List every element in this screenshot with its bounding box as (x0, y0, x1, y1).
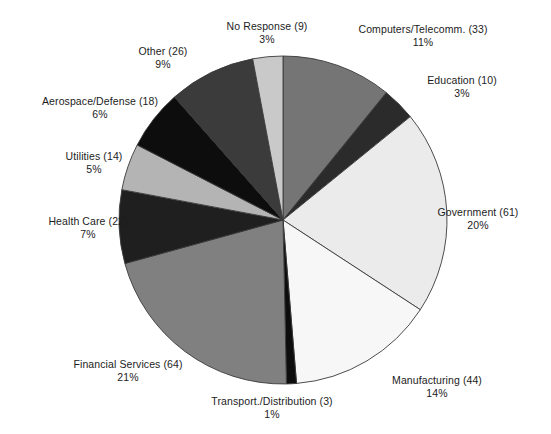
pie-slice-label-text: Financial Services (64)21% (73, 358, 182, 384)
pie-slice-label-percent: 20% (438, 219, 519, 232)
pie-slice-label-percent: 21% (73, 371, 182, 384)
pie-slice-label-name: Computers/Telecomm. (33) (358, 23, 487, 36)
pie-slice-label-text: Manufacturing (44)14% (392, 374, 482, 400)
pie-slice-label-name: Transport./Distribution (3) (211, 395, 332, 408)
pie-slice-label-text: Utilities (14)5% (66, 150, 123, 176)
pie-chart: Computers/Telecomm. (33)11%Education (10… (0, 0, 551, 434)
pie-slice-label-text: No Response (9)3% (227, 20, 308, 46)
pie-slice-label-name: Aerospace/Defense (18) (42, 95, 158, 108)
pie-chart-page: Computers/Telecomm. (33)11%Education (10… (0, 0, 551, 434)
pie-slice-label-name: No Response (9) (227, 20, 308, 33)
pie-slice-label-percent: 11% (358, 36, 487, 49)
pie-slice-label-name: Financial Services (64) (73, 358, 182, 371)
pie-slice-label-text: Computers/Telecomm. (33)11% (358, 23, 487, 49)
pie-slice-label-name: Health Care (22) (48, 215, 127, 228)
pie-slice-label-percent: 14% (392, 387, 482, 400)
pie-slice-label-name: Other (26) (139, 45, 188, 58)
pie-slice-label-text: Aerospace/Defense (18)6% (42, 95, 158, 121)
pie-slice-label-name: Manufacturing (44) (392, 374, 482, 387)
pie-slice-label-percent: 3% (427, 87, 497, 100)
pie-slice-label-text: Other (26)9% (139, 45, 188, 71)
pie-slice-label-text: Transport./Distribution (3)1% (211, 395, 332, 421)
pie-slice-label-percent: 6% (42, 108, 158, 121)
pie-slice-label-percent: 5% (66, 163, 123, 176)
pie-slice-label-name: Government (61) (438, 206, 519, 219)
pie-slice-label-name: Education (10) (427, 74, 497, 87)
pie-slice-label-percent: 1% (211, 408, 332, 421)
pie-slice-label-percent: 3% (227, 33, 308, 46)
pie-slice-label-text: Education (10)3% (427, 74, 497, 100)
pie-slice-label-text: Health Care (22)7% (48, 215, 127, 241)
pie-slice-label-percent: 7% (48, 228, 127, 241)
pie-slice-label-percent: 9% (139, 58, 188, 71)
pie-slice-label-name: Utilities (14) (66, 150, 123, 163)
pie-slice-label-text: Government (61)20% (438, 206, 519, 232)
